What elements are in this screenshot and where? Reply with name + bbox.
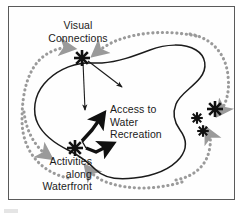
view-arrow-down	[83, 62, 85, 110]
access-arrows	[82, 116, 110, 152]
access-arrow-lower	[86, 145, 110, 152]
marker-east-mid-icon	[191, 112, 203, 124]
label-activities-along-waterfront: Activities along Waterfront	[18, 155, 92, 193]
marker-east-low-icon	[197, 125, 209, 137]
label-visual-connections: Visual Connections	[36, 19, 120, 44]
view-arrow-southeast	[88, 61, 122, 87]
access-arrow-upper	[82, 116, 102, 141]
marker-activities-waterfront-icon	[67, 140, 83, 156]
marker-east-large-icon	[207, 101, 223, 117]
label-access-to-water-recreation: Access to Water Recreation	[110, 103, 186, 141]
marker-visual-connections-icon	[74, 50, 90, 66]
diagram-page: Visual Connections Access to Water Recre…	[0, 0, 243, 220]
scan-artifact	[4, 209, 18, 213]
